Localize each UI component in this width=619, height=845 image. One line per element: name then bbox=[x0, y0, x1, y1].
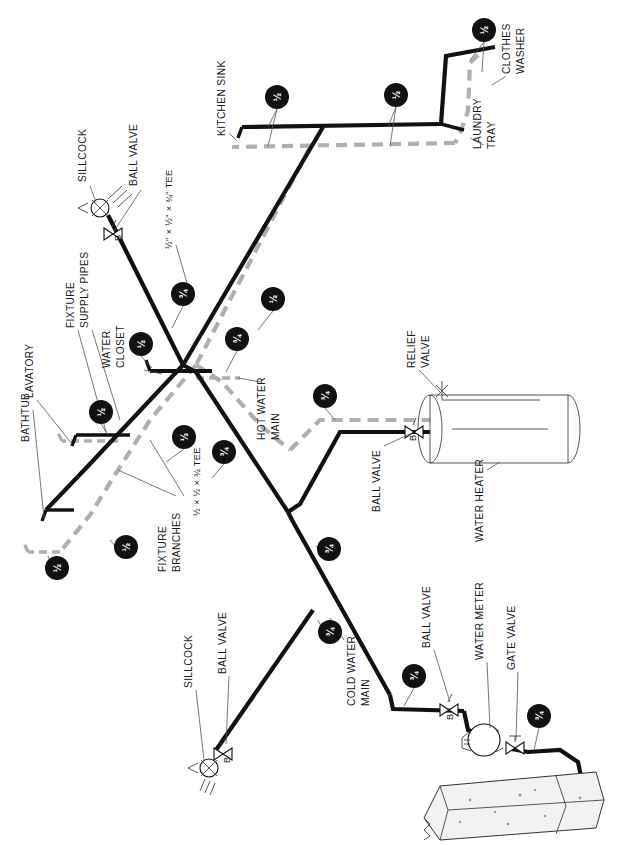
cold-top-horizontal-run bbox=[242, 124, 441, 127]
tag-tee-branch: ¾ bbox=[212, 440, 236, 464]
tag-riser-main-text: ¾ bbox=[177, 288, 189, 298]
label-fixture-supply-line2: SUPPLY PIPES bbox=[79, 252, 90, 328]
cold-main-descending bbox=[288, 512, 390, 695]
label-ball-valve-heater: BALL VALVE bbox=[371, 450, 382, 512]
label-relief-valve-line2: VALVE bbox=[420, 335, 431, 368]
tag-bathtub-low-text: ½ bbox=[51, 563, 63, 572]
tag-clothes-washer-text: ½ bbox=[478, 25, 490, 34]
hot-stub-lavatory-drop bbox=[58, 433, 62, 441]
water-heater bbox=[418, 391, 580, 463]
tag-cold-riser-text: ¾ bbox=[323, 543, 335, 553]
tag-hot-branch-text: ½ bbox=[267, 294, 279, 303]
tag-fixture-branch-text: ½ bbox=[178, 432, 190, 441]
label-clothes-washer-line1: CLOTHES bbox=[501, 23, 512, 74]
tag-lavatory-text: ½ bbox=[95, 407, 107, 416]
tag-water-closet: ½ bbox=[129, 332, 153, 356]
label-cold-water-main-line2: MAIN bbox=[360, 679, 371, 706]
tag-kitchen-sink: ½ bbox=[265, 85, 289, 109]
label-tee-center: ½ × ½ × ¾ TEE bbox=[192, 447, 202, 516]
cold-sillcock-branch-lower bbox=[216, 610, 313, 750]
sillcock-bottom bbox=[188, 759, 218, 795]
devices-and-valves bbox=[78, 186, 604, 840]
cold-stub-lavatory-drop bbox=[72, 435, 76, 446]
label-sillcock-top: SILLCOCK bbox=[77, 129, 88, 182]
label-sillcock-bottom: SILLCOCK bbox=[183, 635, 194, 688]
tag-cold-riser: ¾ bbox=[317, 537, 341, 561]
label-gate-valve: GATE VALVE bbox=[506, 605, 517, 670]
tag-service-entry-text: ¾ bbox=[533, 710, 545, 720]
tag-hot-main-top: ¾ bbox=[225, 327, 249, 351]
tag-kitchen-sink-text: ½ bbox=[271, 92, 283, 101]
tag-water-closet-text: ½ bbox=[135, 339, 147, 348]
hot-laundry-run bbox=[232, 143, 455, 147]
sillcock-top bbox=[78, 186, 132, 217]
label-kitchen-sink: KITCHEN SINK bbox=[216, 60, 227, 136]
tag-hot-branch: ½ bbox=[261, 287, 285, 311]
cold-stub-kitchen-sink bbox=[238, 127, 242, 138]
label-laundry-tray-line1: LAUNDRY bbox=[472, 98, 483, 149]
tag-tee-branch-text: ¾ bbox=[218, 446, 230, 456]
tag-lavatory: ½ bbox=[89, 400, 113, 424]
tag-meter-branch: ¾ bbox=[402, 664, 426, 688]
label-water-closet-line1: WATER bbox=[101, 331, 112, 368]
label-water-meter: WATER METER bbox=[474, 582, 485, 660]
label-ball-valve-bottom: BALL VALVE bbox=[217, 612, 228, 674]
tag-riser-main: ¾ bbox=[171, 282, 195, 306]
label-bathtub: BATHTUB bbox=[20, 393, 31, 442]
tag-meter-branch-text: ¾ bbox=[408, 670, 420, 680]
label-ball-valve-top: BALL VALVE bbox=[128, 124, 139, 186]
hot-stub-bathtub-drop bbox=[24, 543, 28, 552]
label-hot-water-main-line2: MAIN bbox=[270, 413, 281, 440]
tag-cold-main-mid: ¾ bbox=[318, 620, 342, 644]
label-clothes-washer-line2: WASHER bbox=[515, 28, 526, 74]
label-laundry-tray-line2: TRAY bbox=[486, 121, 497, 149]
cold-water-heater-feed bbox=[288, 432, 430, 512]
valve-letter-b-meter: B bbox=[445, 714, 455, 720]
tag-bathtub: ½ bbox=[114, 535, 138, 559]
hot-water-network bbox=[24, 55, 478, 552]
tag-service-entry: ¾ bbox=[527, 704, 551, 728]
tag-laundry-tray: ½ bbox=[384, 83, 408, 107]
tag-cold-main-mid-text: ¾ bbox=[324, 626, 336, 636]
label-lavatory: LAVATORY bbox=[24, 343, 35, 398]
tag-fixture-branch: ½ bbox=[172, 425, 196, 449]
tag-clothes-washer: ½ bbox=[472, 18, 496, 42]
tag-bathtub-text: ½ bbox=[120, 542, 132, 551]
cold-down-to-main bbox=[196, 372, 288, 512]
valve-letter-b-top: B bbox=[113, 235, 123, 241]
label-ball-valve-meter: BALL VALVE bbox=[421, 586, 432, 648]
tag-leaders bbox=[48, 42, 539, 750]
tag-heater-hot: ¾ bbox=[313, 384, 337, 408]
tag-laundry-tray-text: ½ bbox=[390, 90, 402, 99]
label-fixture-branches-line2: BRANCHES bbox=[171, 513, 182, 572]
plumbing-isometric-diagram: SILLCOCK BALL VALVE ½" × ½" × ¾" TEE KIT… bbox=[0, 0, 619, 845]
tag-heater-hot-text: ¾ bbox=[319, 390, 331, 400]
cold-water-network bbox=[42, 47, 586, 818]
label-fixture-branches-line1: FIXTURE bbox=[157, 526, 168, 572]
label-relief-valve-line1: RELIEF bbox=[406, 330, 417, 368]
ball-valve-meter bbox=[440, 694, 458, 716]
foundation-wall bbox=[424, 772, 604, 840]
diagram-text-labels: SILLCOCK BALL VALVE ½" × ½" × ¾" TEE KIT… bbox=[20, 23, 526, 763]
label-fixture-supply-line1: FIXTURE bbox=[65, 282, 76, 328]
label-tee-top: ½" × ½" × ¾" TEE bbox=[164, 169, 174, 249]
cold-main-riser-diagonal bbox=[183, 127, 323, 365]
diagram-canvas: SILLCOCK BALL VALVE ½" × ½" × ¾" TEE KIT… bbox=[0, 0, 619, 845]
label-water-closet-line2: CLOSET bbox=[115, 325, 126, 368]
tag-bathtub-low: ½ bbox=[45, 556, 69, 580]
tag-hot-main-top-text: ¾ bbox=[231, 333, 243, 343]
label-water-heater: WATER HEATER bbox=[474, 459, 485, 542]
label-cold-water-main-line1: COLD WATER bbox=[346, 636, 357, 706]
valve-letter-b-bottom: B bbox=[222, 757, 232, 763]
label-hot-water-main-line1: HOT WATER bbox=[256, 377, 267, 440]
valve-letter-b-heater: B bbox=[408, 435, 418, 441]
